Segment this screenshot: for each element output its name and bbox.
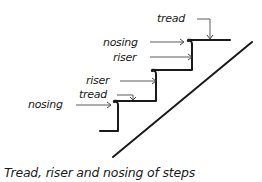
label-tread-lower: tread	[79, 89, 107, 100]
label-tread-top: tread	[157, 13, 185, 24]
diagram-caption: Tread, riser and nosing of steps	[4, 165, 195, 180]
label-nosing-upper: nosing	[103, 37, 138, 48]
label-nosing-lower: nosing	[28, 99, 63, 110]
stair-drawing	[0, 0, 262, 182]
label-riser-upper: riser	[113, 52, 136, 63]
leader-tread-top	[197, 19, 210, 38]
stair-diagram: tread nosing riser riser tread nosing Tr…	[0, 0, 262, 182]
label-riser-lower: riser	[86, 75, 109, 86]
